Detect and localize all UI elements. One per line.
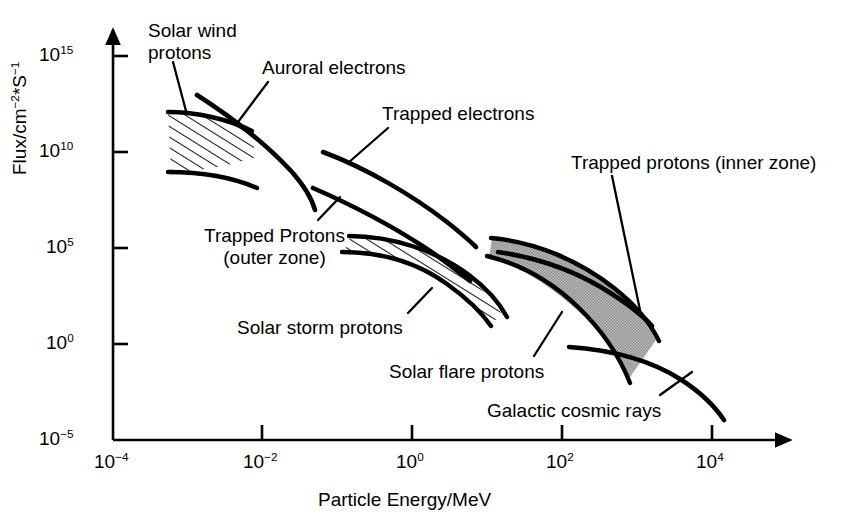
annotation-trapped-protons-outer-zone: Trapped Protons (outer zone) <box>192 225 357 269</box>
solar-wind-protons-band <box>168 112 256 172</box>
x-tick-label-1e4: 104 <box>696 452 724 471</box>
annotation-galactic-cosmic-rays: Galactic cosmic rays <box>487 400 661 422</box>
annotation-solar-wind-protons: Solar wind protons <box>148 20 237 64</box>
x-tick-label-1e2: 102 <box>546 452 574 471</box>
annotation-solar-flare-protons: Solar flare protons <box>389 361 544 383</box>
annotation-trapped-protons-outer-zone-line2: (outer zone) <box>192 247 357 269</box>
y-tick-label-1e0: 100 <box>46 333 74 352</box>
x-tick-label-1e0: 100 <box>396 452 424 471</box>
y-axis-ticks <box>113 56 128 344</box>
leader-solar-wind-protons <box>173 62 186 111</box>
annotation-solar-wind-protons-line1: Solar wind <box>148 20 237 42</box>
x-axis-ticks <box>262 425 712 440</box>
series-solar-wind-protons <box>168 112 257 188</box>
annotation-auroral-electrons: Auroral electrons <box>262 57 406 79</box>
x-tick-label-1e-4: 10−4 <box>94 452 129 471</box>
leader-solar-storm-protons <box>408 288 432 313</box>
y-axis-title: Flux/cm−2*S−1 <box>10 0 29 175</box>
y-tick-label-1e-5: 10−5 <box>39 429 74 448</box>
solar-wind-protons-lower-edge <box>168 172 257 188</box>
x-axis-title: Particle Energy/MeV <box>318 490 491 509</box>
leader-trapped-protons-outer-zone <box>318 197 340 220</box>
y-tick-label-1e5: 105 <box>46 237 74 256</box>
y-axis-title-wrapper: Flux/cm−2*S−1 <box>10 0 50 175</box>
series-solar-storm-protons <box>342 236 507 326</box>
annotation-solar-storm-protons: Solar storm protons <box>237 317 403 339</box>
x-tick-label-1e-2: 10−2 <box>243 452 278 471</box>
annotation-trapped-protons-inner-zone: Trapped protons (inner zone) <box>571 152 816 174</box>
particle-flux-figure: 1015 1010 105 100 10−5 10−4 10−2 100 102… <box>0 0 856 529</box>
annotation-trapped-electrons: Trapped electrons <box>382 103 534 125</box>
leader-solar-flare-protons <box>534 312 562 356</box>
leader-trapped-electrons <box>348 128 388 163</box>
leader-auroral-electrons <box>238 82 268 122</box>
annotation-trapped-protons-outer-zone-line1: Trapped Protons <box>192 225 357 247</box>
annotation-solar-wind-protons-line2: protons <box>148 42 237 64</box>
